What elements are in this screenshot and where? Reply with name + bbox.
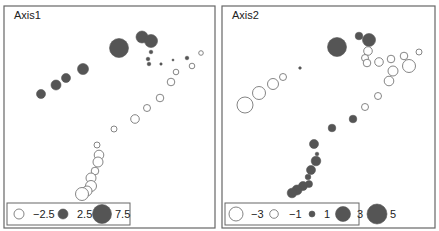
legend-label: −1 bbox=[289, 208, 302, 220]
bubble-scatter-figure: Axis1 −2.52.57.5 Axis2 −3−1135 bbox=[0, 0, 439, 231]
data-bubble bbox=[280, 74, 287, 81]
data-bubble bbox=[355, 32, 363, 40]
data-bubble bbox=[110, 39, 129, 58]
legend-bubble bbox=[270, 210, 279, 219]
data-bubble bbox=[93, 157, 103, 167]
data-bubble bbox=[363, 59, 371, 67]
data-bubble bbox=[167, 78, 175, 86]
data-bubble bbox=[268, 79, 279, 90]
data-bubble bbox=[76, 188, 89, 201]
data-bubble bbox=[199, 51, 204, 56]
size-legend: −3−1135 bbox=[225, 203, 396, 225]
data-bubble bbox=[37, 90, 46, 99]
panel-frame bbox=[4, 6, 215, 228]
data-bubble bbox=[307, 166, 316, 175]
panel-title: Axis1 bbox=[14, 9, 41, 21]
data-bubble bbox=[362, 104, 369, 111]
data-bubble bbox=[111, 126, 117, 132]
legend-bubble bbox=[93, 205, 112, 224]
legend-label: 7.5 bbox=[115, 208, 130, 220]
legend-bubble bbox=[367, 204, 387, 224]
data-bubble bbox=[387, 55, 395, 63]
data-bubble bbox=[328, 38, 347, 57]
data-bubble bbox=[149, 50, 153, 54]
data-bubble bbox=[145, 35, 158, 48]
data-bubble bbox=[51, 80, 61, 90]
panel-axis1: Axis1 −2.52.57.5 bbox=[4, 6, 215, 228]
legend-label: 3 bbox=[357, 208, 363, 220]
data-bubble bbox=[400, 52, 408, 60]
data-bubble bbox=[349, 115, 357, 123]
data-bubble bbox=[416, 49, 422, 55]
figure-canvas: Axis1 −2.52.57.5 Axis2 −3−1135 bbox=[0, 0, 439, 231]
legend-bubble bbox=[14, 209, 24, 219]
data-bubble bbox=[172, 59, 174, 61]
legend-bubble bbox=[229, 207, 243, 221]
data-bubble bbox=[287, 188, 297, 198]
data-bubble bbox=[315, 152, 319, 156]
size-legend: −2.52.57.5 bbox=[7, 203, 130, 225]
data-bubble bbox=[253, 87, 266, 100]
legend-bubble bbox=[309, 211, 315, 217]
data-bubble bbox=[403, 60, 416, 73]
data-bubble bbox=[328, 124, 336, 132]
data-bubble bbox=[189, 63, 195, 69]
data-bubble bbox=[94, 142, 100, 148]
bubble-points bbox=[37, 31, 204, 201]
data-bubble bbox=[185, 56, 189, 60]
panel-title: Axis2 bbox=[232, 9, 259, 21]
data-bubble bbox=[375, 93, 382, 100]
data-bubble bbox=[299, 67, 302, 70]
data-bubble bbox=[363, 34, 376, 47]
legend-label: −3 bbox=[251, 208, 264, 220]
data-bubble bbox=[160, 63, 162, 65]
legend-label: 5 bbox=[390, 208, 396, 220]
legend-label: 1 bbox=[324, 208, 330, 220]
data-bubble bbox=[78, 64, 89, 75]
data-bubble bbox=[311, 156, 321, 166]
data-bubble bbox=[144, 105, 151, 112]
data-bubble bbox=[173, 69, 179, 75]
legend-label: 2.5 bbox=[77, 208, 92, 220]
data-bubble bbox=[131, 115, 140, 124]
data-bubble bbox=[375, 58, 384, 67]
data-bubble bbox=[384, 76, 394, 86]
data-bubble bbox=[146, 57, 150, 61]
data-bubble bbox=[310, 140, 319, 149]
legend-label: −2.5 bbox=[33, 208, 55, 220]
legend-bubble bbox=[58, 209, 68, 219]
data-bubble bbox=[147, 62, 151, 66]
data-bubble bbox=[62, 74, 71, 83]
data-bubble bbox=[364, 47, 373, 56]
bubble-points bbox=[237, 32, 422, 198]
panel-frame bbox=[222, 6, 435, 228]
data-bubble bbox=[305, 174, 311, 180]
data-bubble bbox=[156, 94, 164, 102]
legend-bubble bbox=[336, 207, 351, 222]
data-bubble bbox=[388, 66, 398, 76]
panel-axis2: Axis2 −3−1135 bbox=[222, 6, 435, 228]
data-bubble bbox=[237, 97, 253, 113]
